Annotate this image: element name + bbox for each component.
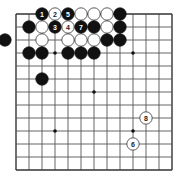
move-number-label: 7 bbox=[79, 24, 83, 31]
black-stone bbox=[75, 47, 87, 59]
move-number-label: 6 bbox=[131, 141, 135, 148]
black-stone bbox=[88, 21, 100, 33]
white-stone bbox=[88, 8, 100, 20]
black-stone bbox=[114, 8, 126, 20]
white-stone: 2 bbox=[49, 8, 61, 20]
black-stone bbox=[62, 47, 74, 59]
white-stone bbox=[88, 34, 100, 46]
black-stone bbox=[23, 21, 35, 33]
black-stone: 5 bbox=[62, 8, 74, 20]
move-number-label: 2 bbox=[53, 11, 57, 18]
move-number-label: 1 bbox=[40, 11, 44, 18]
white-stone bbox=[62, 34, 74, 46]
black-stone: 1 bbox=[36, 8, 48, 20]
star-point bbox=[53, 51, 57, 55]
white-stone: 4 bbox=[62, 21, 74, 33]
white-stone bbox=[75, 8, 87, 20]
black-stone bbox=[114, 21, 126, 33]
white-stone: 6 bbox=[127, 138, 139, 150]
move-number-label: 8 bbox=[144, 115, 148, 122]
move-number-label: 5 bbox=[66, 11, 70, 18]
white-stone bbox=[36, 34, 48, 46]
black-stone bbox=[88, 47, 100, 59]
black-stone bbox=[0, 34, 11, 46]
black-stone bbox=[23, 47, 35, 59]
white-stone: 8 bbox=[140, 112, 152, 124]
white-stone bbox=[101, 21, 113, 33]
black-stone: 3 bbox=[49, 21, 61, 33]
star-point bbox=[92, 90, 96, 94]
go-board: 12534786 bbox=[0, 0, 178, 184]
black-stone bbox=[114, 34, 126, 46]
star-point bbox=[131, 51, 135, 55]
move-number-label: 3 bbox=[53, 24, 57, 31]
white-stone bbox=[101, 8, 113, 20]
star-point bbox=[53, 129, 57, 133]
black-stone: 7 bbox=[75, 21, 87, 33]
move-number-label: 4 bbox=[66, 24, 70, 31]
white-stone bbox=[75, 34, 87, 46]
star-point bbox=[131, 129, 135, 133]
black-stone bbox=[36, 47, 48, 59]
white-stone bbox=[36, 21, 48, 33]
black-stone bbox=[36, 73, 48, 85]
black-stone bbox=[101, 34, 113, 46]
